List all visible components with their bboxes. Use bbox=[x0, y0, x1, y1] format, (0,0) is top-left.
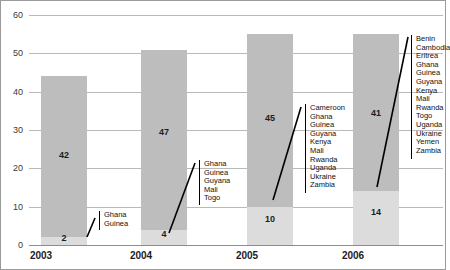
annotation-bracket-2006 bbox=[411, 35, 412, 159]
y-axis-tick-60: 60 bbox=[13, 10, 23, 20]
x-axis-label-2003: 2003 bbox=[6, 250, 76, 261]
x-axis-label-2004: 2004 bbox=[106, 250, 176, 261]
x-axis-label-2006: 2006 bbox=[318, 250, 388, 261]
x-axis-label-2005: 2005 bbox=[212, 250, 282, 261]
gridline-0 bbox=[29, 245, 443, 246]
y-axis-tick-20: 20 bbox=[13, 163, 23, 173]
y-axis-tick-30: 30 bbox=[13, 125, 23, 135]
y-axis-tick-40: 40 bbox=[13, 87, 23, 97]
y-axis-tick-10: 10 bbox=[13, 202, 23, 212]
leader-line-2006 bbox=[29, 15, 443, 245]
y-axis-tick-50: 50 bbox=[13, 48, 23, 58]
annotation-2006: Benin Cambodia Eritrea Ghana Guinea Guya… bbox=[411, 35, 450, 155]
annotation-item: Zambia bbox=[416, 147, 450, 156]
y-axis-tick-0: 0 bbox=[18, 240, 23, 250]
plot-area: 60 50 40 30 20 10 0 2 42 4 47 10 bbox=[29, 15, 443, 245]
